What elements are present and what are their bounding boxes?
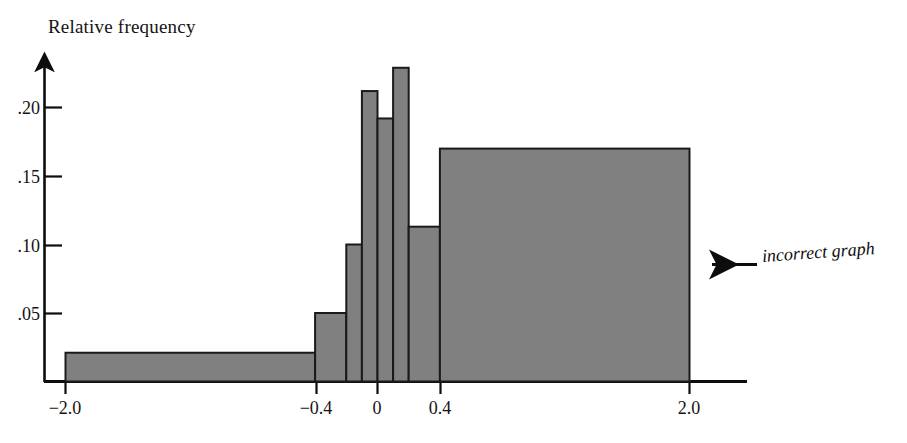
histogram-bar	[315, 313, 346, 382]
histogram-bar	[409, 227, 440, 382]
histogram-bar	[66, 353, 316, 382]
histogram-figure: Relative frequency .20 .15 .10 .05 −2.0 …	[0, 0, 907, 443]
y-axis	[44, 62, 62, 382]
histogram-bar	[393, 68, 409, 382]
histogram-bars	[66, 68, 690, 382]
plot-area	[0, 0, 907, 443]
x-axis	[44, 382, 747, 395]
histogram-bar	[440, 149, 690, 382]
histogram-bar	[346, 245, 362, 382]
histogram-bar	[362, 91, 378, 381]
histogram-bar	[378, 118, 394, 381]
